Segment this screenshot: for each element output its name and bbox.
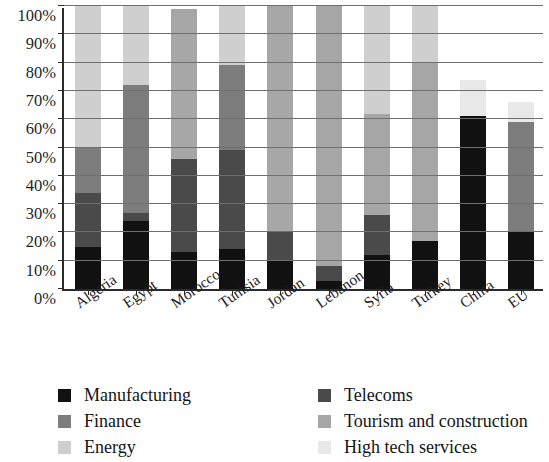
- legend-column-left: ManufacturingFinanceEnergy: [58, 382, 191, 460]
- y-axis-tick: [58, 118, 64, 119]
- bar-segment: [508, 232, 534, 289]
- gridline: [64, 203, 543, 204]
- y-axis-tick: [58, 260, 64, 261]
- chart-legend: ManufacturingFinanceEnergy TelecomsTouri…: [0, 382, 549, 462]
- bar-segment: [171, 9, 197, 159]
- gridline: [64, 33, 543, 34]
- legend-label: High tech services: [344, 438, 477, 456]
- y-axis-tick: [58, 5, 64, 6]
- gridline: [64, 62, 543, 63]
- bar-segment: [219, 6, 245, 65]
- y-axis-tick-label: 40%: [0, 178, 56, 195]
- legend-swatch: [58, 441, 71, 454]
- bar-segment: [364, 215, 390, 255]
- y-axis-tick: [58, 33, 64, 34]
- legend-swatch: [318, 441, 331, 454]
- gridline: [64, 260, 543, 261]
- bar-segment: [171, 159, 197, 252]
- bar-segment: [219, 65, 245, 150]
- legend-swatch: [318, 415, 331, 428]
- legend-item: Telecoms: [318, 382, 528, 408]
- gridline: [64, 147, 543, 148]
- y-axis-tick-label: 90%: [0, 36, 56, 53]
- bar-segment: [123, 6, 149, 85]
- stacked-bar-chart: 0%10%20%30%40%50%60%70%80%90%100% Algeri…: [0, 0, 549, 462]
- legend-swatch: [58, 415, 71, 428]
- y-axis-tick-label: 20%: [0, 234, 56, 251]
- y-axis-tick: [58, 203, 64, 204]
- legend-swatch: [318, 389, 331, 402]
- bar-segment: [75, 148, 101, 193]
- y-axis-tick: [58, 231, 64, 232]
- y-axis-tick: [58, 288, 64, 289]
- y-axis-tick-label: 10%: [0, 263, 56, 280]
- bar-segment: [364, 114, 390, 216]
- legend-swatch: [58, 389, 71, 402]
- legend-item: Tourism and construction: [318, 408, 528, 434]
- legend-label: Manufacturing: [84, 386, 191, 404]
- y-axis-tick-label: 80%: [0, 65, 56, 82]
- y-axis-tick-label: 30%: [0, 206, 56, 223]
- bar-segment: [412, 6, 438, 63]
- gridline: [64, 231, 543, 232]
- gridline: [64, 90, 543, 91]
- y-axis-tick: [58, 62, 64, 63]
- plot-area: [62, 8, 543, 291]
- y-axis-tick-label: 0%: [0, 291, 56, 308]
- bar-segment: [123, 213, 149, 221]
- legend-item: Energy: [58, 434, 191, 460]
- y-axis-tick: [58, 90, 64, 91]
- bar-segment: [460, 80, 486, 117]
- y-axis-labels: 0%10%20%30%40%50%60%70%80%90%100%: [0, 8, 58, 291]
- bar-segment: [123, 85, 149, 212]
- bar-series-container: [64, 8, 543, 289]
- legend-label: Telecoms: [344, 386, 413, 404]
- y-axis-tick-label: 100%: [0, 8, 56, 25]
- legend-item: Manufacturing: [58, 382, 191, 408]
- y-axis-tick: [58, 175, 64, 176]
- y-axis-tick: [58, 147, 64, 148]
- gridline: [64, 5, 543, 6]
- bar-segment: [508, 122, 534, 232]
- bar-segment: [75, 193, 101, 247]
- y-axis-tick-label: 50%: [0, 150, 56, 167]
- bar-segment: [316, 6, 342, 266]
- bar-segment: [267, 232, 293, 260]
- legend-item: High tech services: [318, 434, 528, 460]
- y-axis-tick-label: 70%: [0, 93, 56, 110]
- legend-label: Energy: [84, 438, 136, 456]
- bar-segment: [364, 6, 390, 114]
- x-axis-labels: AlgeriaEgyptMoroccoTunisiaJordanLebanonS…: [62, 292, 543, 370]
- y-axis-tick-label: 60%: [0, 121, 56, 138]
- bar-segment: [75, 6, 101, 148]
- legend-label: Tourism and construction: [344, 412, 528, 430]
- gridline: [64, 118, 543, 119]
- gridline: [64, 175, 543, 176]
- legend-item: Finance: [58, 408, 191, 434]
- legend-column-right: TelecomsTourism and constructionHigh tec…: [318, 382, 528, 460]
- legend-label: Finance: [84, 412, 141, 430]
- bar-segment: [219, 150, 245, 249]
- bar-segment: [267, 6, 293, 232]
